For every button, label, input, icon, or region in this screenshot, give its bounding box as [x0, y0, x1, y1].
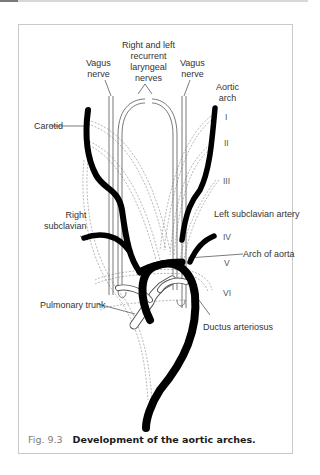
figure-title: Development of the aortic arches. — [73, 434, 256, 445]
label-carotid: Carotid — [34, 121, 63, 132]
label-vagus-left: Vagus nerve — [86, 58, 111, 80]
arch-numeral-6: VI — [223, 288, 231, 298]
arch-numeral-4: IV — [223, 232, 231, 242]
label-recurrent-laryngeal: Right and left recurrent laryngeal nerve… — [122, 40, 175, 84]
recurrent-laryngeal-nerves — [118, 99, 185, 306]
aorta-vessels — [84, 108, 215, 428]
label-vagus-right: Vagus nerve — [180, 58, 205, 80]
figure-caption: Fig. 9.3Development of the aortic arches… — [28, 434, 256, 445]
label-ductus-arteriosus: Ductus arteriosus — [203, 322, 273, 333]
label-aortic-arch: Aortic arch — [216, 82, 239, 104]
label-left-subclavian-artery: Left subclavian artery — [214, 209, 300, 220]
figure-number: Fig. 9.3 — [28, 434, 63, 445]
arch-numeral-1: I — [225, 112, 227, 122]
label-pulmonary-trunk: Pulmonary trunk — [40, 300, 106, 311]
arch-numeral-2: II — [224, 138, 229, 148]
label-right-subclavian: Right subclavian — [44, 210, 87, 232]
label-arch-of-aorta: Arch of aorta — [243, 249, 295, 260]
arch-numeral-3: III — [223, 176, 230, 186]
arch-numeral-5: V — [224, 258, 230, 268]
